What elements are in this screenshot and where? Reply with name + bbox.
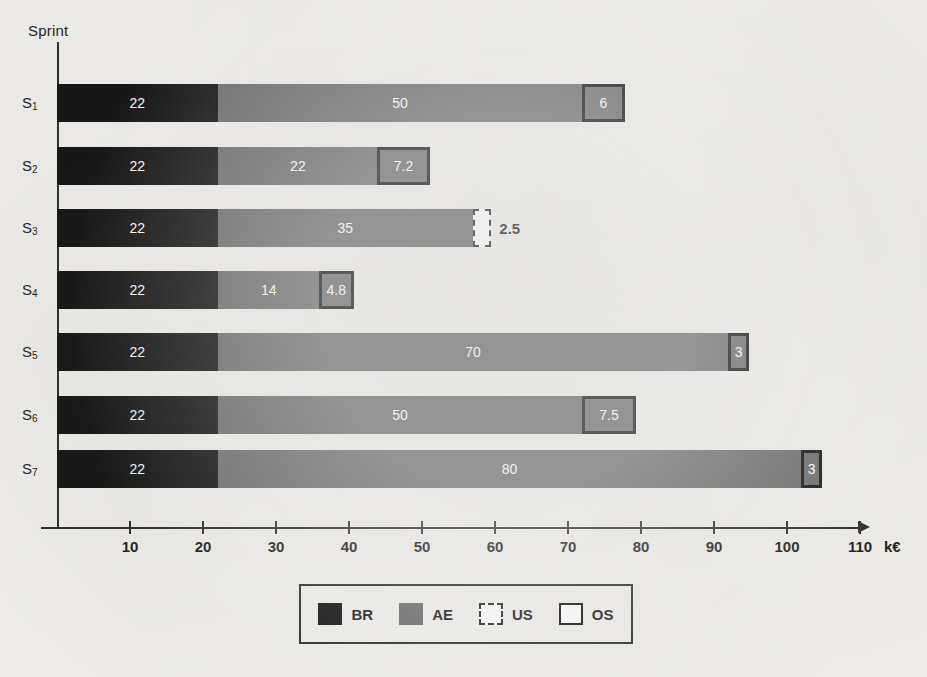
bar-row-S7: S722803 xyxy=(0,450,927,488)
bar-row-S5: S522703 xyxy=(0,333,927,371)
y-label-subscript: 5 xyxy=(32,350,38,361)
bar-segment-S7-AE[interactable]: 80 xyxy=(218,450,802,488)
x-tick-label-70: 70 xyxy=(560,538,577,555)
bar-value-label: 6 xyxy=(600,95,608,111)
bar-value-label-outside: 2.5 xyxy=(499,220,520,237)
x-tick-label-60: 60 xyxy=(487,538,504,555)
y-label-base: S xyxy=(22,343,32,360)
bar-segment-S2-BR[interactable]: 22 xyxy=(57,147,218,185)
bar-value-label: 3 xyxy=(735,344,743,360)
y-label-subscript: 4 xyxy=(32,288,38,299)
x-tick-label-20: 20 xyxy=(195,538,212,555)
bar-value-label: 22 xyxy=(290,158,306,174)
bar-segment-S4-OS[interactable]: 4.8 xyxy=(319,271,354,309)
bar-segment-S3-BR[interactable]: 22 xyxy=(57,209,218,247)
legend-item-BR[interactable]: BR xyxy=(318,603,373,625)
x-tick-label-50: 50 xyxy=(414,538,431,555)
bar-segment-S4-AE[interactable]: 14 xyxy=(218,271,320,309)
bar-segment-S6-OS[interactable]: 7.5 xyxy=(582,396,637,434)
bar-value-label: 22 xyxy=(130,158,146,174)
x-tick-label-10: 10 xyxy=(122,538,139,555)
x-tick-110 xyxy=(859,521,861,534)
bar-value-label: 3 xyxy=(808,461,816,477)
x-tick-70 xyxy=(567,521,569,534)
bar-segment-S1-AE[interactable]: 50 xyxy=(218,84,583,122)
y-label-subscript: 6 xyxy=(32,413,38,424)
x-tick-label-30: 30 xyxy=(268,538,285,555)
bar-value-label: 35 xyxy=(338,220,354,236)
x-tick-label-90: 90 xyxy=(706,538,723,555)
x-tick-label-80: 80 xyxy=(633,538,650,555)
bar-segment-S3-US[interactable] xyxy=(473,209,491,247)
bar-value-label: 50 xyxy=(392,95,408,111)
x-tick-100 xyxy=(786,521,788,534)
legend-label: US xyxy=(512,606,533,623)
y-tick-label-S3: S3 xyxy=(22,219,38,237)
y-tick-label-S4: S4 xyxy=(22,281,38,299)
bar-row-S1: S122506 xyxy=(0,84,927,122)
bar-value-label: 4.8 xyxy=(327,282,346,298)
y-label-base: S xyxy=(22,281,32,298)
y-tick-label-S2: S2 xyxy=(22,157,38,175)
x-tick-40 xyxy=(348,521,350,534)
x-tick-label-40: 40 xyxy=(341,538,358,555)
bar-value-label: 80 xyxy=(502,461,518,477)
bar-segment-S2-OS[interactable]: 7.2 xyxy=(377,147,430,185)
legend-item-US[interactable]: US xyxy=(479,603,533,625)
bar-segment-S4-BR[interactable]: 22 xyxy=(57,271,218,309)
y-tick-label-S7: S7 xyxy=(22,460,38,478)
legend-swatch-AE-icon xyxy=(399,603,423,625)
x-tick-label-100: 100 xyxy=(774,538,799,555)
y-label-base: S xyxy=(22,94,32,111)
bar-segment-S5-AE[interactable]: 70 xyxy=(218,333,729,371)
bar-value-label: 22 xyxy=(130,95,146,111)
bar-segment-S1-BR[interactable]: 22 xyxy=(57,84,218,122)
chart-legend: BRAEUSOS xyxy=(299,584,633,644)
bar-segment-S7-BR[interactable]: 22 xyxy=(57,450,218,488)
legend-swatch-US-icon xyxy=(479,603,503,625)
y-tick-label-S6: S6 xyxy=(22,406,38,424)
y-label-base: S xyxy=(22,460,32,477)
legend-swatch-BR-icon xyxy=(318,603,342,625)
bar-segment-S6-BR[interactable]: 22 xyxy=(57,396,218,434)
y-label-base: S xyxy=(22,157,32,174)
legend-swatch-OS-icon xyxy=(559,603,583,625)
legend-label: AE xyxy=(432,606,453,623)
bar-segment-S1-OS[interactable]: 6 xyxy=(582,84,626,122)
bar-value-label: 7.2 xyxy=(394,158,413,174)
x-tick-10 xyxy=(129,521,131,534)
legend-label: BR xyxy=(351,606,373,623)
bar-segment-S2-AE[interactable]: 22 xyxy=(218,147,379,185)
legend-item-AE[interactable]: AE xyxy=(399,603,453,625)
x-tick-50 xyxy=(421,521,423,534)
x-tick-label-110: 110 xyxy=(848,538,872,555)
bar-segment-S5-BR[interactable]: 22 xyxy=(57,333,218,371)
x-axis-line xyxy=(41,527,861,529)
bar-value-label: 14 xyxy=(261,282,277,298)
x-tick-60 xyxy=(494,521,496,534)
bar-row-S4: S422144.8 xyxy=(0,271,927,309)
y-label-subscript: 1 xyxy=(32,101,38,112)
bar-value-label: 22 xyxy=(130,282,146,298)
x-tick-80 xyxy=(640,521,642,534)
bar-value-label: 50 xyxy=(392,407,408,423)
bar-chart: Sprint S122506S222227.2S322352.5S422144.… xyxy=(0,0,927,677)
bar-segment-S3-AE[interactable]: 35 xyxy=(218,209,474,247)
x-tick-20 xyxy=(202,521,204,534)
bar-segment-S7-OS[interactable]: 3 xyxy=(801,450,823,488)
y-label-base: S xyxy=(22,219,32,236)
y-label-subscript: 2 xyxy=(32,164,38,175)
legend-item-OS[interactable]: OS xyxy=(559,603,614,625)
bar-value-label: 70 xyxy=(465,344,481,360)
y-label-base: S xyxy=(22,406,32,423)
y-axis-title: Sprint xyxy=(28,22,68,39)
bar-segment-S6-AE[interactable]: 50 xyxy=(218,396,583,434)
bar-segment-S5-OS[interactable]: 3 xyxy=(728,333,750,371)
y-tick-label-S5: S5 xyxy=(22,343,38,361)
bar-row-S6: S622507.5 xyxy=(0,396,927,434)
x-axis-unit-label: k€ xyxy=(884,538,901,555)
y-tick-label-S1: S1 xyxy=(22,94,38,112)
bar-value-label: 7.5 xyxy=(599,407,618,423)
y-label-subscript: 7 xyxy=(32,467,38,478)
bar-row-S2: S222227.2 xyxy=(0,147,927,185)
